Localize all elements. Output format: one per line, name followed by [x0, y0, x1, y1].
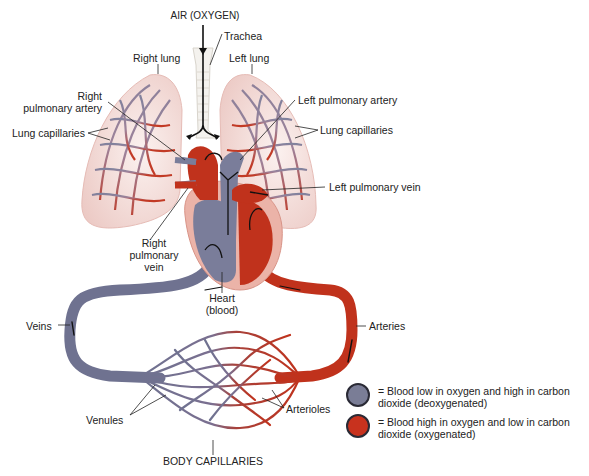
trachea — [186, 25, 220, 140]
right-pulmonary-vein-label-line2: pulmonary — [128, 249, 180, 261]
heart-label-line1: Heart — [200, 292, 244, 304]
arterioles-label: Arterioles — [286, 403, 330, 415]
right-pulmonary-vein-label-line3: vein — [128, 261, 180, 273]
arteries-label: Arteries — [369, 320, 405, 332]
legend-item-oxygenated: = Blood high in oxygen and low in carbon… — [346, 416, 588, 440]
venules-label: Venules — [86, 414, 123, 426]
veins-label: Veins — [26, 320, 52, 332]
deoxygenated-blood-swatch — [346, 383, 370, 407]
right-pulmonary-vein-label-line1: Right — [128, 237, 180, 249]
circulation-diagram: AIR (OXYGEN) Trachea Right lung Left lun… — [0, 0, 589, 476]
left-pulmonary-artery-label: Left pulmonary artery — [298, 94, 397, 106]
trachea-label: Trachea — [224, 30, 262, 42]
right-lung-label: Right lung — [133, 52, 180, 64]
legend-text-deoxygenated: = Blood low in oxygen and high in carbon… — [378, 385, 588, 409]
heart-label-line2: (blood) — [200, 304, 244, 316]
right-pulmonary-artery-label-line1: Right — [12, 90, 102, 102]
lung-capillaries-right-lung-label: Lung capillaries — [12, 127, 85, 139]
air-oxygen-label: AIR (OXYGEN) — [165, 10, 245, 22]
body-capillaries-label: BODY CAPILLARIES — [150, 455, 276, 467]
oxygenated-blood-swatch — [346, 414, 370, 438]
right-pulmonary-artery-label-line2: pulmonary artery — [12, 102, 102, 114]
left-pulmonary-vein-label: Left pulmonary vein — [329, 181, 421, 193]
lung-capillaries-left-lung-label: Lung capillaries — [320, 124, 393, 136]
left-lung-label: Left lung — [229, 52, 269, 64]
legend-text-oxygenated: = Blood high in oxygen and low in carbon… — [378, 416, 588, 440]
legend-item-deoxygenated: = Blood low in oxygen and high in carbon… — [346, 385, 588, 409]
